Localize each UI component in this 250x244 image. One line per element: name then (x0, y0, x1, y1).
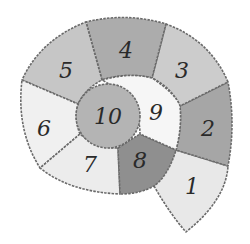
label-7: 7 (83, 152, 97, 177)
label-10: 10 (94, 104, 122, 129)
label-4: 4 (118, 38, 133, 63)
label-3: 3 (175, 58, 189, 83)
label-5: 5 (59, 58, 73, 83)
label-6: 6 (37, 116, 51, 141)
label-2: 2 (200, 116, 215, 141)
label-8: 8 (133, 148, 147, 173)
label-9: 9 (149, 100, 163, 125)
spiral-shell-diagram: 1 2 3 4 5 6 7 8 9 10 (0, 0, 250, 244)
label-1: 1 (185, 174, 199, 199)
